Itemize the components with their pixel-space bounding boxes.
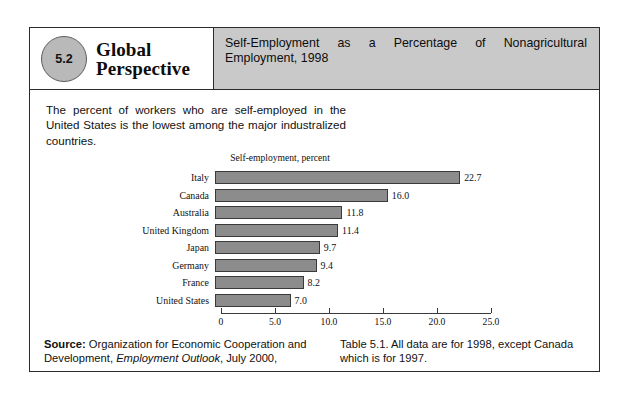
chart-title: Self-employment, percent bbox=[30, 152, 530, 163]
x-axis-tick-label: 20.0 bbox=[429, 316, 446, 327]
bar-category-label: Australia bbox=[30, 207, 215, 218]
source-text-b: , July 2000, bbox=[220, 352, 277, 364]
source-note: Source: Organization for Economic Cooper… bbox=[44, 337, 336, 366]
x-axis-tick-label: 10.0 bbox=[321, 316, 338, 327]
x-axis-tick bbox=[329, 308, 330, 313]
series-title-line2: Perspective bbox=[96, 59, 190, 78]
series-title-line1: Global bbox=[96, 40, 190, 59]
chart-bar-row: Italy22.7 bbox=[30, 169, 590, 187]
bar bbox=[215, 206, 342, 219]
figure-page: 5.2 Global Perspective Self-Employment a… bbox=[0, 0, 633, 405]
chart-bar-row: United States7.0 bbox=[30, 292, 590, 310]
panel-header-right: Self-Employment as a Percentage of Nonag… bbox=[214, 28, 599, 89]
bar-value-label: 22.7 bbox=[464, 172, 481, 183]
bar-value-label: 9.4 bbox=[321, 260, 333, 271]
source-label: Source: bbox=[44, 338, 86, 350]
bar-value-label: 7.0 bbox=[295, 295, 307, 306]
bar-track: 22.7 bbox=[215, 171, 590, 184]
x-axis-tick bbox=[437, 308, 438, 313]
chart-bar-row: Australia11.8 bbox=[30, 204, 590, 222]
bar-track: 9.7 bbox=[215, 241, 590, 254]
chart-x-axis: 05.010.015.020.025.0 bbox=[221, 313, 491, 339]
series-title: Global Perspective bbox=[96, 40, 190, 78]
x-axis-tick-label: 0 bbox=[219, 316, 224, 327]
bar-category-label: United Kingdom bbox=[30, 225, 215, 236]
chart-bar-row: Canada16.0 bbox=[30, 187, 590, 205]
panel-body: The percent of workers who are self-empl… bbox=[30, 90, 599, 372]
panel-header: 5.2 Global Perspective Self-Employment a… bbox=[30, 28, 599, 90]
x-axis-tick-label: 5.0 bbox=[269, 316, 281, 327]
global-perspective-panel: 5.2 Global Perspective Self-Employment a… bbox=[29, 27, 600, 372]
bar-track: 8.2 bbox=[215, 276, 590, 289]
table-note: Table 5.1. All data are for 1998, except… bbox=[336, 337, 585, 366]
x-axis-tick bbox=[221, 308, 222, 313]
chart-bar-row: Japan9.7 bbox=[30, 239, 590, 257]
bar bbox=[215, 259, 317, 272]
x-axis-tick-label: 15.0 bbox=[375, 316, 392, 327]
bar-track: 7.0 bbox=[215, 294, 590, 307]
source-publication: Employment Outlook bbox=[116, 352, 220, 364]
figure-number-label: 5.2 bbox=[55, 52, 72, 66]
bar-value-label: 8.2 bbox=[308, 277, 320, 288]
bar-value-label: 9.7 bbox=[324, 242, 336, 253]
bar-category-label: United States bbox=[30, 295, 215, 306]
bar bbox=[215, 276, 304, 289]
chart-bar-row: Germany9.4 bbox=[30, 257, 590, 275]
bar-chart: Self-employment, percent Italy22.7Canada… bbox=[30, 90, 599, 372]
bar-track: 11.4 bbox=[215, 224, 590, 237]
x-axis-tick bbox=[491, 308, 492, 313]
panel-header-left: 5.2 Global Perspective bbox=[30, 28, 214, 89]
bar bbox=[215, 294, 291, 307]
bar-value-label: 11.4 bbox=[342, 225, 359, 236]
bar-value-label: 16.0 bbox=[392, 190, 409, 201]
bar-category-label: Germany bbox=[30, 260, 215, 271]
chart-bar-row: United Kingdom11.4 bbox=[30, 222, 590, 240]
chart-bar-row: France8.2 bbox=[30, 274, 590, 292]
bar-track: 11.8 bbox=[215, 206, 590, 219]
panel-footer: Source: Organization for Economic Cooper… bbox=[30, 337, 599, 366]
bar bbox=[215, 224, 338, 237]
figure-number-badge: 5.2 bbox=[41, 36, 87, 82]
bar-category-label: France bbox=[30, 277, 215, 288]
bar bbox=[215, 189, 388, 202]
bar-track: 16.0 bbox=[215, 189, 590, 202]
x-axis-tick-label: 25.0 bbox=[483, 316, 500, 327]
bar-category-label: Japan bbox=[30, 242, 215, 253]
bar-track: 9.4 bbox=[215, 259, 590, 272]
bar bbox=[215, 171, 460, 184]
chart-plot-area: Italy22.7Canada16.0Australia11.8United K… bbox=[30, 169, 590, 309]
x-axis-line bbox=[221, 313, 491, 314]
x-axis-tick bbox=[275, 308, 276, 313]
bar bbox=[215, 241, 320, 254]
bar-category-label: Canada bbox=[30, 190, 215, 201]
bar-value-label: 11.8 bbox=[346, 207, 363, 218]
panel-title: Self-Employment as a Percentage of Nonag… bbox=[225, 36, 587, 66]
x-axis-tick bbox=[383, 308, 384, 313]
bar-category-label: Italy bbox=[30, 172, 215, 183]
